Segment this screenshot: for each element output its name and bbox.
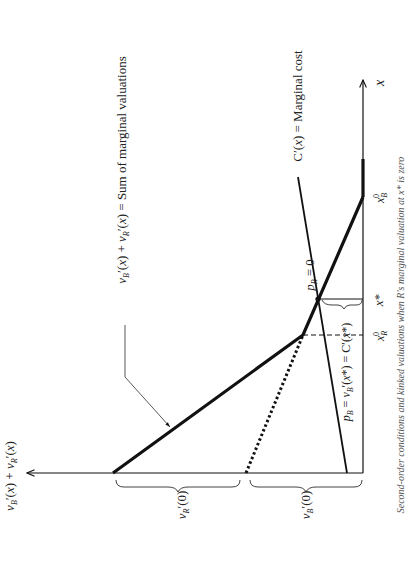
diagram: x vB′(x) + vR′(x) vB′(x) + vR′(x) = Sum … [0,0,408,565]
marginal-cost-label: C′(x) = Marginal cost [290,50,305,162]
vr0-brace [116,480,240,492]
leader-line [125,325,170,427]
xr0-label: xR0 [372,331,389,342]
pb-label: pB = vB′(x*) = C′(x*) [339,323,355,423]
x-axis-label: x [372,79,387,87]
sum-curve [113,197,363,473]
pr-label: pR = 0 [302,259,319,292]
x-star-label: x* [371,294,386,307]
vb0-brace [250,480,362,492]
y-axis-label: vB′(x) + vR′(x) [2,441,19,511]
figure-caption: Second-order conditions and kinked valua… [395,157,406,514]
xb0-label: xB0 [372,193,389,204]
sum-curve-label: vB′(x) + vR′(x) = Sum of marginal valuat… [114,56,131,283]
vr0-label: vR′(0) [174,491,191,520]
vb0-label: vB′(0) [298,491,315,520]
price-brace [322,300,362,309]
